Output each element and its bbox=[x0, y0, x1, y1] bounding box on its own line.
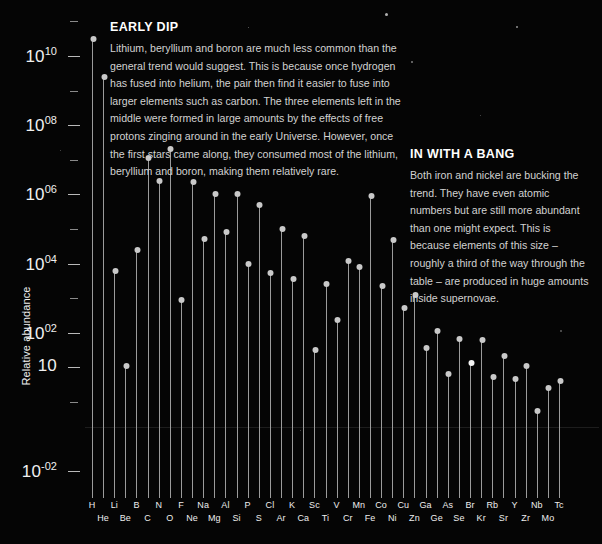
data-point-h[interactable] bbox=[90, 36, 96, 42]
data-point-li[interactable] bbox=[112, 268, 118, 274]
y-axis-tick-major bbox=[68, 56, 80, 57]
stem-n bbox=[159, 181, 160, 498]
data-point-be[interactable] bbox=[123, 363, 129, 369]
y-axis-tick-major bbox=[68, 264, 80, 265]
y-axis-tick-major bbox=[68, 125, 80, 126]
reference-gridline bbox=[85, 427, 599, 428]
x-axis-label-nb: Nb bbox=[526, 500, 548, 510]
stem-sc bbox=[314, 350, 315, 498]
stem-tc bbox=[559, 381, 560, 498]
data-point-co[interactable] bbox=[379, 283, 385, 289]
stem-f bbox=[181, 300, 182, 498]
y-axis-tick-label: 1010 bbox=[25, 45, 57, 67]
stem-zr bbox=[526, 366, 527, 498]
data-point-he[interactable] bbox=[101, 74, 107, 80]
annotation-body: Both iron and nickel are bucking the tre… bbox=[410, 167, 592, 308]
data-point-ti[interactable] bbox=[324, 281, 330, 287]
data-point-p[interactable] bbox=[246, 261, 252, 267]
y-axis-tick-label: 1006 bbox=[25, 183, 57, 205]
stem-mo bbox=[548, 388, 549, 498]
y-axis-title: Relative abundance bbox=[20, 266, 32, 406]
data-point-kr[interactable] bbox=[479, 337, 485, 343]
x-axis-label-kr: Kr bbox=[470, 513, 492, 523]
data-point-b[interactable] bbox=[134, 247, 140, 253]
stem-ne bbox=[192, 182, 193, 498]
x-axis-label-h: H bbox=[81, 500, 103, 510]
data-point-ca[interactable] bbox=[301, 233, 307, 239]
annotation-early-dip: EARLY DIP Lithium, beryllium and boron a… bbox=[110, 20, 410, 181]
y-axis-tick-minor bbox=[70, 402, 78, 403]
data-point-al[interactable] bbox=[223, 229, 229, 235]
data-point-zr[interactable] bbox=[524, 363, 530, 369]
x-axis-label-c: C bbox=[137, 513, 159, 523]
y-axis-tick-major bbox=[68, 367, 80, 368]
data-point-cu[interactable] bbox=[401, 305, 407, 311]
data-point-cl[interactable] bbox=[268, 270, 274, 276]
x-axis-label-cu: Cu bbox=[392, 500, 414, 510]
y-axis-tick-label: 10-02 bbox=[22, 460, 57, 482]
stem-fe bbox=[370, 196, 371, 498]
x-axis-label-tc: Tc bbox=[548, 500, 570, 510]
stem-sr bbox=[503, 356, 504, 498]
stem-cl bbox=[270, 273, 271, 498]
data-point-sr[interactable] bbox=[501, 353, 507, 359]
data-point-mo[interactable] bbox=[546, 385, 552, 391]
x-axis-label-al: Al bbox=[214, 500, 236, 510]
stem-ni bbox=[392, 240, 393, 498]
x-axis-label-ti: Ti bbox=[315, 513, 337, 523]
stem-zn bbox=[414, 295, 415, 498]
data-point-se[interactable] bbox=[457, 336, 463, 342]
data-point-mg[interactable] bbox=[212, 191, 218, 197]
data-point-si[interactable] bbox=[235, 191, 241, 197]
data-point-k[interactable] bbox=[290, 276, 296, 282]
x-axis-label-sc: Sc bbox=[303, 500, 325, 510]
stem-be bbox=[125, 366, 126, 498]
data-point-na[interactable] bbox=[201, 236, 207, 242]
stem-as bbox=[448, 374, 449, 498]
stem-al bbox=[225, 232, 226, 498]
x-axis-label-v: V bbox=[326, 500, 348, 510]
x-axis-label-na: Na bbox=[192, 500, 214, 510]
x-axis-label-li: Li bbox=[103, 500, 125, 510]
data-point-ga[interactable] bbox=[424, 345, 430, 351]
y-axis-tick-major bbox=[68, 194, 80, 195]
stem-s bbox=[259, 205, 260, 498]
annotation-title: IN WITH A BANG bbox=[410, 147, 592, 161]
x-axis-label-n: N bbox=[148, 500, 170, 510]
x-axis-label-se: Se bbox=[448, 513, 470, 523]
data-point-as[interactable] bbox=[446, 371, 452, 377]
data-point-sc[interactable] bbox=[312, 347, 318, 353]
annotation-title: EARLY DIP bbox=[110, 20, 410, 34]
stem-he bbox=[103, 77, 104, 498]
x-axis-label-si: Si bbox=[226, 513, 248, 523]
data-point-rb[interactable] bbox=[490, 374, 496, 380]
data-point-nb[interactable] bbox=[535, 408, 541, 414]
stem-k bbox=[292, 279, 293, 498]
stem-ca bbox=[303, 236, 304, 498]
y-axis-tick-minor bbox=[70, 229, 78, 230]
stem-ti bbox=[326, 284, 327, 498]
data-point-v[interactable] bbox=[335, 317, 341, 323]
data-point-y[interactable] bbox=[513, 376, 519, 382]
data-point-ar[interactable] bbox=[279, 226, 285, 232]
data-point-f[interactable] bbox=[179, 297, 185, 303]
data-point-tc[interactable] bbox=[557, 378, 563, 384]
stem-v bbox=[337, 320, 338, 498]
data-point-br[interactable] bbox=[468, 360, 474, 366]
x-axis-label-as: As bbox=[437, 500, 459, 510]
x-axis-label-he: He bbox=[92, 513, 114, 523]
data-point-s[interactable] bbox=[257, 202, 263, 208]
x-axis-label-cr: Cr bbox=[337, 513, 359, 523]
x-axis-label-o: O bbox=[159, 513, 181, 523]
stem-si bbox=[237, 194, 238, 498]
data-point-mn[interactable] bbox=[357, 264, 363, 270]
data-point-ni[interactable] bbox=[390, 237, 396, 243]
x-axis-label-mo: Mo bbox=[537, 513, 559, 523]
stem-br bbox=[470, 363, 471, 498]
x-axis-label-co: Co bbox=[370, 500, 392, 510]
x-axis-label-s: S bbox=[248, 513, 270, 523]
data-point-cr[interactable] bbox=[346, 258, 352, 264]
data-point-fe[interactable] bbox=[368, 193, 374, 199]
data-point-ge[interactable] bbox=[435, 328, 441, 334]
stem-mn bbox=[359, 267, 360, 498]
